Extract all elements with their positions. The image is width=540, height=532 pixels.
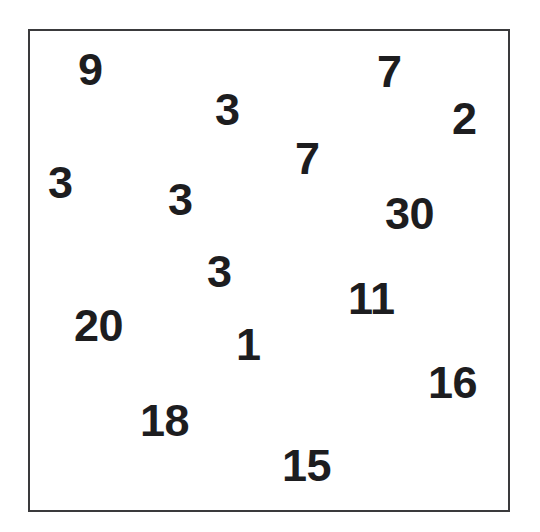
scatter-number-label: 18 (140, 398, 189, 443)
figure-canvas: 937237330311201161815 (0, 0, 540, 532)
scatter-number-label: 3 (215, 87, 240, 132)
scatter-number-label: 3 (168, 177, 193, 222)
scatter-number-label: 15 (282, 443, 331, 488)
scatter-number-label: 7 (295, 136, 320, 181)
scatter-number-label: 30 (385, 191, 434, 236)
scatter-number-label: 2 (452, 96, 477, 141)
scatter-number-label: 7 (377, 49, 402, 94)
scatter-number-layer: 937237330311201161815 (0, 0, 540, 532)
scatter-number-label: 11 (348, 276, 395, 321)
scatter-number-label: 3 (207, 249, 232, 294)
scatter-number-label: 16 (428, 360, 477, 405)
scatter-number-label: 3 (48, 160, 73, 205)
scatter-number-label: 1 (236, 322, 261, 367)
scatter-number-label: 9 (78, 47, 103, 92)
scatter-number-label: 20 (74, 303, 123, 348)
